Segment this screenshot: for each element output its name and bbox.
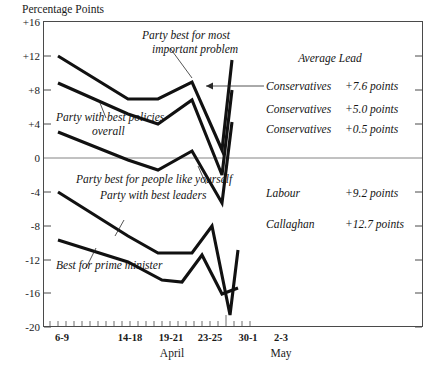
y-tick-label-16: +16 bbox=[23, 16, 41, 28]
series-line-best-policies-overall bbox=[58, 83, 232, 175]
legend-heading: Average Lead bbox=[297, 52, 362, 65]
annotation-prime-minister: Best for prime minister bbox=[56, 259, 163, 272]
legend-row-3-value: +9.2 points bbox=[345, 187, 399, 200]
x-tick-label-19-21: 19-21 bbox=[159, 332, 184, 343]
annotation-best-policies-line1: Party with best policies bbox=[55, 111, 165, 124]
y-tick-label-8: +8 bbox=[28, 84, 40, 96]
y-tick-label-minus8: -8 bbox=[31, 220, 41, 232]
legend-arrow-to-series1 bbox=[206, 83, 264, 90]
line-chart: Percentage Points +16 bbox=[0, 0, 439, 369]
legend-row-1-party: Conservatives bbox=[266, 103, 332, 115]
x-tick-label-14-18: 14-18 bbox=[118, 332, 143, 343]
annotation-most-important-problem-line2: important problem bbox=[152, 43, 238, 56]
annotation-people-like-yourself: Party best for people like yourself bbox=[75, 173, 234, 186]
legend-row-0-value: +7.6 points bbox=[345, 80, 399, 93]
series-line-best-leaders bbox=[58, 192, 238, 315]
x-axis-month-april: April bbox=[160, 347, 184, 360]
y-axis-ticks-right bbox=[415, 56, 422, 327]
legend-row-2-value: +0.5 points bbox=[345, 123, 399, 136]
y-tick-label-12: +12 bbox=[23, 50, 40, 62]
y-axis-title: Percentage Points bbox=[22, 3, 105, 16]
legend-row-4-value: +12.7 points bbox=[345, 218, 404, 231]
legend-row-0-party: Conservatives bbox=[266, 80, 332, 92]
legend-row-1-value: +5.0 points bbox=[345, 103, 399, 116]
x-tick-label-2-3: 2-3 bbox=[274, 332, 288, 343]
y-tick-label-minus16: -16 bbox=[25, 287, 40, 299]
annotation-best-policies-line2: overall bbox=[92, 125, 125, 137]
x-axis-month-may: May bbox=[270, 347, 291, 360]
y-tick-label-minus12: -12 bbox=[25, 254, 40, 266]
annotation-most-important-problem-line1: Party best for most bbox=[141, 29, 231, 42]
legend-row-4-party: Callaghan bbox=[266, 218, 315, 231]
x-tick-label-23-25: 23-25 bbox=[198, 332, 223, 343]
x-axis-minor-ticks bbox=[50, 315, 250, 326]
legend-row-3-party: Labour bbox=[265, 187, 300, 199]
chart-container: Percentage Points +16 bbox=[0, 0, 439, 369]
legend-row-2-party: Conservatives bbox=[266, 123, 332, 135]
y-tick-label-0: 0 bbox=[35, 152, 41, 164]
y-axis-ticks-left bbox=[44, 56, 51, 327]
x-tick-label-30-1: 30-1 bbox=[238, 332, 257, 343]
annotation-best-leaders: Party with best leaders bbox=[99, 189, 207, 202]
y-tick-label-4: +4 bbox=[28, 118, 40, 130]
x-tick-label-6-9: 6-9 bbox=[55, 332, 69, 343]
y-tick-label-minus4: -4 bbox=[31, 186, 41, 198]
